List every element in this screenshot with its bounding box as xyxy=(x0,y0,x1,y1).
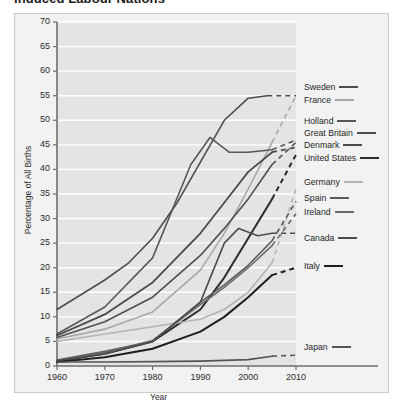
legend-item-ireland[interactable]: Ireland xyxy=(304,208,354,217)
x-tick-label: 2000 xyxy=(228,372,268,382)
legend-item-canada[interactable]: Canada xyxy=(304,234,357,243)
x-tick-label: 1960 xyxy=(37,372,77,382)
legend-swatch xyxy=(335,99,354,101)
chart-figure: Induced Labour Nations Percentage of All… xyxy=(0,0,401,412)
legend-label: Denmark xyxy=(304,141,339,150)
x-tick-label: 1970 xyxy=(85,372,125,382)
y-tick-label: 70 xyxy=(24,16,50,26)
y-tick-label: 15 xyxy=(24,286,50,296)
legend-swatch xyxy=(324,265,343,267)
legend-label: Germany xyxy=(304,178,340,187)
y-tick-label: 10 xyxy=(24,311,50,321)
y-tick-label: 30 xyxy=(24,213,50,223)
legend-label: Great Britain xyxy=(304,129,353,138)
x-tick-label: 1990 xyxy=(180,372,220,382)
x-axis-title: Year xyxy=(150,392,167,402)
legend-swatch xyxy=(338,237,357,239)
legend-swatch xyxy=(339,86,358,88)
x-tick-label: 1980 xyxy=(133,372,173,382)
legend-item-sweden[interactable]: Sweden xyxy=(304,83,358,92)
legend-label: United States xyxy=(304,154,356,163)
y-tick-label: 50 xyxy=(24,114,50,124)
y-tick-label: 40 xyxy=(24,163,50,173)
legend-label: Sweden xyxy=(304,83,335,92)
legend-item-holland[interactable]: Holland xyxy=(304,117,356,126)
series-projection-japan xyxy=(272,355,296,356)
legend-item-denmark[interactable]: Denmark xyxy=(304,141,362,150)
legend-item-japan[interactable]: Japan xyxy=(304,343,351,352)
legend-swatch xyxy=(360,157,379,159)
legend-item-italy[interactable]: Italy xyxy=(304,262,343,271)
legend-label: Ireland xyxy=(304,208,331,217)
legend-item-germany[interactable]: Germany xyxy=(304,178,363,187)
x-tick-label: 2010 xyxy=(276,372,316,382)
y-tick-label: 45 xyxy=(24,139,50,149)
y-tick-label: 5 xyxy=(24,335,50,345)
legend-label: Holland xyxy=(304,117,333,126)
legend-swatch xyxy=(337,120,356,122)
y-tick-label: 20 xyxy=(24,262,50,272)
y-tick-label: 25 xyxy=(24,237,50,247)
legend-label: France xyxy=(304,96,331,105)
legend-swatch xyxy=(332,346,351,348)
legend-item-france[interactable]: France xyxy=(304,96,354,105)
legend-item-spain[interactable]: Spain xyxy=(304,194,349,203)
y-tick-label: 0 xyxy=(24,360,50,370)
y-tick-label: 35 xyxy=(24,188,50,198)
legend-label: Canada xyxy=(304,234,334,243)
legend-swatch xyxy=(335,211,354,213)
y-tick-label: 65 xyxy=(24,41,50,51)
legend-item-great-britain[interactable]: Great Britain xyxy=(304,129,376,138)
legend-swatch xyxy=(344,181,363,183)
y-tick-label: 60 xyxy=(24,65,50,75)
legend-label: Italy xyxy=(304,262,320,271)
legend-swatch xyxy=(330,197,349,199)
legend-swatch xyxy=(343,144,362,146)
legend-label: Japan xyxy=(304,343,328,352)
legend-swatch xyxy=(357,132,376,134)
legend-item-united-states[interactable]: United States xyxy=(304,154,379,163)
legend-label: Spain xyxy=(304,194,326,203)
y-tick-label: 55 xyxy=(24,90,50,100)
